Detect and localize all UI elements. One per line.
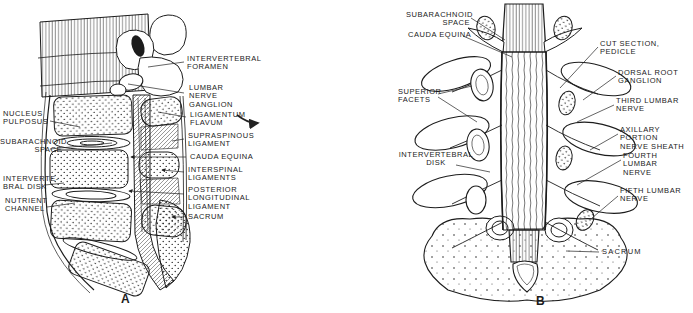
- label-intervertebral-foramen: INTERVERTEBRAL FORAMEN: [187, 55, 262, 72]
- anatomical-illustration: [0, 0, 693, 313]
- label-posterior-longitudinal-ligament: POSTERIOR LONGITUDINAL LIGAMENT: [188, 186, 250, 211]
- label-cauda-equina-a: CAUDA EQUINA: [190, 153, 253, 161]
- label-fifth-lumbar-nerve: FIFTH LUMBAR NERVE: [620, 187, 681, 204]
- label-interspinal-ligaments: INTERSPINAL LIGAMENTS: [188, 166, 243, 183]
- panel-a-letter: A: [121, 292, 131, 306]
- label-superior-facets: SUPERIOR FACETS: [398, 88, 442, 105]
- label-third-lumbar-nerve: THIRD LUMBAR NERVE: [616, 97, 679, 114]
- label-nutrient-channel: NUTRIENT CHANNEL: [5, 197, 47, 214]
- label-intervertebral-disk-a: INTERVERTE- BRAL DISK: [3, 175, 59, 192]
- label-supraspinous-ligament: SUPRASPINOUS LIGAMENT: [188, 132, 254, 149]
- label-ligamentum-flavum: LIGAMENTUM FLAVUM: [190, 111, 246, 128]
- label-cut-section-pedicle: CUT SECTION, PEDICLE: [600, 40, 693, 57]
- panel-a-drawing: [38, 14, 190, 298]
- label-subarachnoid-space-b: SUBARACHNOID SPACE: [406, 11, 470, 28]
- lumbar-spine-figure: NUCLEUS PULPOSUS SUBARACHNOID SPACE INTE…: [0, 0, 693, 313]
- label-sacrum-b: SACRUM: [602, 248, 642, 256]
- label-axillary-portion-nerve-sheath: AXILLARY PORTION NERVE SHEATH: [620, 126, 693, 151]
- label-dorsal-root-ganglion: DORSAL ROOT GANGLION: [618, 69, 678, 86]
- label-subarachnoid-space-a: SUBARACHNOID SPACE: [0, 138, 62, 155]
- panel-b-letter: B: [536, 294, 546, 308]
- label-intervertebral-disk-b: INTERVERTEBRAL DISK: [390, 151, 482, 168]
- label-lumbar-nerve-ganglion: LUMBAR NERVE GANGLION: [189, 84, 233, 109]
- label-sacrum-a: SACRUM: [188, 213, 224, 221]
- label-cauda-equina-b: CAUDA EQUINA: [408, 31, 471, 39]
- label-nucleus-pulposus: NUCLEUS PULPOSUS: [3, 110, 48, 127]
- label-fourth-lumbar-nerve: FOURTH LUMBAR NERVE: [623, 152, 693, 177]
